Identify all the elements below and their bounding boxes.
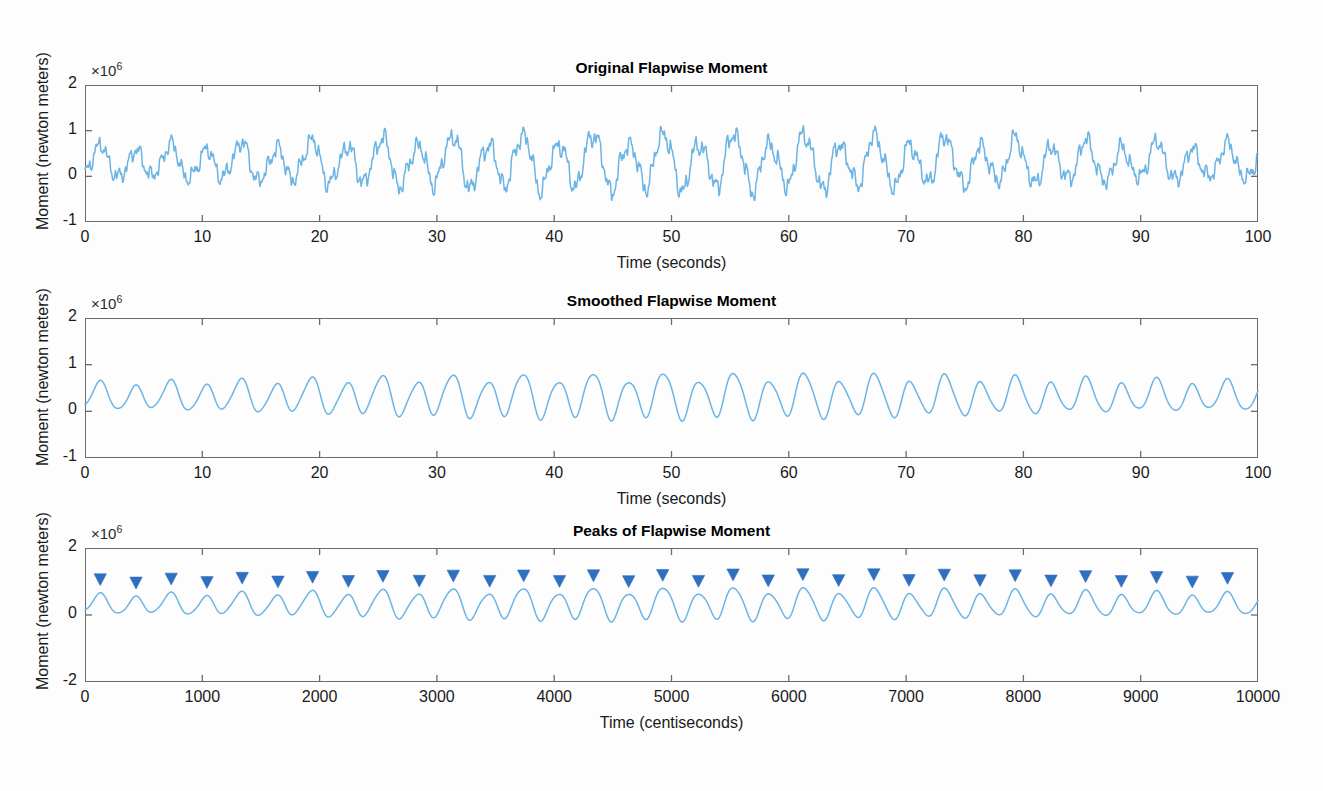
x-axis-label-2: Time (seconds) xyxy=(85,490,1258,508)
x-tick-label: 2000 xyxy=(275,688,365,706)
axes-box-2 xyxy=(85,318,1258,458)
x-tick-label: 80 xyxy=(978,228,1068,246)
subplot-title-3: Peaks of Flapwise Moment xyxy=(85,522,1258,540)
x-tick-label: 70 xyxy=(861,464,951,482)
x-tick-label: 0 xyxy=(40,228,130,246)
x-tick-label: 10 xyxy=(157,228,247,246)
y-axis-exponent-3: ×106 xyxy=(91,523,122,542)
x-tick-label: 20 xyxy=(275,228,365,246)
x-tick-label: 10 xyxy=(157,464,247,482)
x-tick-label: 1000 xyxy=(157,688,247,706)
x-tick-label: 0 xyxy=(40,464,130,482)
x-tick-label: 60 xyxy=(744,228,834,246)
x-tick-label: 30 xyxy=(392,464,482,482)
x-tick-label: 60 xyxy=(744,464,834,482)
axes-box-1 xyxy=(85,85,1258,222)
exponent-base: ×10 xyxy=(91,295,116,312)
x-tick-label: 5000 xyxy=(627,688,717,706)
exponent-power: 6 xyxy=(116,60,122,72)
y-axis-exponent-1: ×106 xyxy=(91,60,122,79)
x-tick-label: 3000 xyxy=(392,688,482,706)
x-tick-label: 4000 xyxy=(509,688,599,706)
y-axis-label-1: Moment (newton meters) xyxy=(34,77,52,230)
x-tick-label: 50 xyxy=(627,228,717,246)
axes-box-3 xyxy=(85,548,1258,682)
x-tick-label: 0 xyxy=(40,688,130,706)
x-tick-label: 70 xyxy=(861,228,951,246)
subplot-title-2: Smoothed Flapwise Moment xyxy=(85,292,1258,310)
x-tick-label: 90 xyxy=(1096,228,1186,246)
exponent-power: 6 xyxy=(116,293,122,305)
y-axis-label-3: Moment (newton meters) xyxy=(34,540,52,690)
x-tick-label: 80 xyxy=(978,464,1068,482)
x-tick-label: 90 xyxy=(1096,464,1186,482)
x-tick-label: 50 xyxy=(627,464,717,482)
x-axis-label-1: Time (seconds) xyxy=(85,254,1258,272)
exponent-base: ×10 xyxy=(91,62,116,79)
x-tick-label: 30 xyxy=(392,228,482,246)
x-tick-label: 8000 xyxy=(978,688,1068,706)
x-tick-label: 20 xyxy=(275,464,365,482)
y-axis-label-2: Moment (newton meters) xyxy=(34,310,52,466)
subplot-title-1: Original Flapwise Moment xyxy=(85,59,1258,77)
x-tick-label: 7000 xyxy=(861,688,951,706)
x-tick-label: 40 xyxy=(509,228,599,246)
x-tick-label: 40 xyxy=(509,464,599,482)
y-axis-exponent-2: ×106 xyxy=(91,293,122,312)
x-tick-label: 6000 xyxy=(744,688,834,706)
exponent-base: ×10 xyxy=(91,525,116,542)
exponent-power: 6 xyxy=(116,523,122,535)
x-tick-label: 9000 xyxy=(1096,688,1186,706)
matlab-figure: Original Flapwise Moment×106-10120102030… xyxy=(0,0,1323,791)
x-tick-label: 100 xyxy=(1213,228,1303,246)
x-tick-label: 100 xyxy=(1213,464,1303,482)
x-tick-label: 10000 xyxy=(1213,688,1303,706)
x-axis-label-3: Time (centiseconds) xyxy=(85,714,1258,732)
